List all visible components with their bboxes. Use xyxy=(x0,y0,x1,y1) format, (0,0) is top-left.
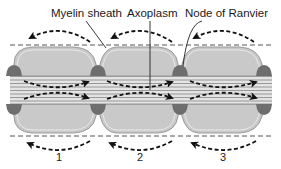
outer-current-arrows-top xyxy=(30,31,254,42)
outer-current-arrows-bottom xyxy=(28,141,256,150)
segment-number-1: 1 xyxy=(56,152,62,163)
label-node-of-ranvier: Node of Ranvier xyxy=(185,8,268,20)
segment-number-2: 2 xyxy=(137,152,143,163)
myelin-sheath-leader xyxy=(86,21,106,48)
segment-number-3: 3 xyxy=(220,152,226,163)
axoplasm-band xyxy=(10,76,272,104)
myelinated-axon-diagram: Myelin sheath Axoplasm Node of Ranvier 1… xyxy=(0,0,281,169)
label-myelin-sheath: Myelin sheath xyxy=(51,8,122,20)
diagram-canvas xyxy=(0,0,281,169)
label-axoplasm: Axoplasm xyxy=(127,8,178,20)
